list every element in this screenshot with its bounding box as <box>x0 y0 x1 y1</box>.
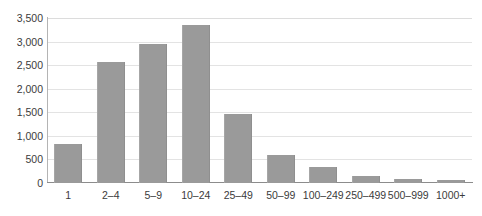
x-tick-label-50–99: 50–99 <box>260 189 303 201</box>
y-tick-label-2500: 2,500 <box>3 60 43 70</box>
bar-1[interactable] <box>54 144 82 183</box>
bar-5–9[interactable] <box>139 44 167 183</box>
bar-100–249[interactable] <box>309 167 337 183</box>
y-tick-label-2000: 2,000 <box>3 84 43 94</box>
y-tick-label-1500: 1,500 <box>3 107 43 117</box>
x-tick-label-1: 1 <box>47 189 90 201</box>
y-axis-tick-labels: 05001,0001,5002,0002,5003,0003,500 <box>0 0 43 216</box>
x-tick-label-100–249: 100–249 <box>302 189 345 201</box>
x-tick-label-25–49: 25–49 <box>217 189 260 201</box>
x-tick-label-10–24: 10–24 <box>175 189 218 201</box>
x-tick-label-1000+: 1000+ <box>430 189 473 201</box>
y-tick-label-0: 0 <box>3 178 43 188</box>
y-tick-label-3500: 3,500 <box>3 13 43 23</box>
x-tick-label-250–499: 250–499 <box>345 189 388 201</box>
gridline-3000 <box>47 42 472 43</box>
x-tick-label-5–9: 5–9 <box>132 189 175 201</box>
bar-250–499[interactable] <box>352 176 380 183</box>
x-tick-label-500–999: 500–999 <box>387 189 430 201</box>
bar-chart: 05001,0001,5002,0002,5003,0003,500 12–45… <box>0 0 482 216</box>
bar-2–4[interactable] <box>97 62 125 183</box>
y-axis-line <box>47 17 48 183</box>
gridline-3500 <box>47 18 472 19</box>
y-tick-label-3000: 3,000 <box>3 37 43 47</box>
y-tick-label-500: 500 <box>3 154 43 164</box>
y-tick-label-1000: 1,000 <box>3 131 43 141</box>
bar-1000+[interactable] <box>437 180 465 183</box>
bar-25–49[interactable] <box>224 114 252 183</box>
bar-50–99[interactable] <box>267 155 295 183</box>
x-tick-label-2–4: 2–4 <box>90 189 133 201</box>
bar-500–999[interactable] <box>394 179 422 182</box>
bar-10–24[interactable] <box>182 25 210 182</box>
